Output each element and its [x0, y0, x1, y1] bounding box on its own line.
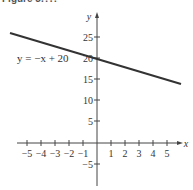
y-axis-label: y: [86, 11, 92, 22]
svg-text:15: 15: [83, 74, 93, 85]
svg-text:−3: −3: [50, 148, 61, 159]
svg-text:−2: −2: [64, 148, 75, 159]
svg-text:2: 2: [123, 148, 128, 159]
svg-text:5: 5: [165, 148, 170, 159]
x-axis-arrow-icon: [177, 141, 183, 145]
svg-text:−5: −5: [22, 148, 33, 159]
svg-text:5: 5: [88, 116, 93, 127]
svg-text:1: 1: [109, 148, 114, 159]
svg-text:3: 3: [137, 148, 142, 159]
svg-text:10: 10: [83, 95, 93, 106]
y-axis-arrow-icon: [95, 12, 99, 18]
svg-text:25: 25: [83, 32, 93, 43]
line-chart: −5 −4 −3 −2 −1 1 2 3 4 5 25 20 15 10 5 −…: [0, 0, 193, 190]
x-axis-label: x: [183, 138, 189, 149]
svg-text:−1: −1: [78, 148, 89, 159]
svg-text:−4: −4: [36, 148, 47, 159]
svg-text:4: 4: [151, 148, 156, 159]
x-tick-labels: −5 −4 −3 −2 −1 1 2 3 4 5: [22, 148, 170, 159]
equation-label: y = −x + 20: [17, 52, 69, 64]
svg-text:−5: −5: [82, 159, 93, 170]
